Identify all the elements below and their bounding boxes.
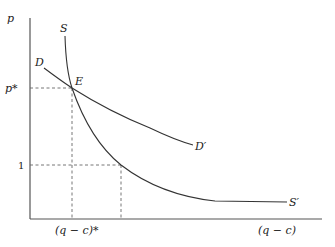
demand-end-label: D′ [194,140,207,153]
q-star-label: (q − c)* [55,224,99,237]
x-axis-label: (q − c) [258,224,296,237]
p-star-label: p* [5,82,18,95]
supply-curve [65,36,287,202]
one-label: 1 [18,160,24,171]
supply-demand-diagram: p (q − c) p* 1 (q − c)* D D′ S S′ E [0,0,335,247]
supply-start-label: S [60,22,68,35]
demand-curve [44,68,193,145]
equilibrium-label: E [74,75,83,88]
y-axis-label: p [7,12,14,25]
supply-end-label: S′ [289,196,300,209]
demand-start-label: D [34,56,44,69]
